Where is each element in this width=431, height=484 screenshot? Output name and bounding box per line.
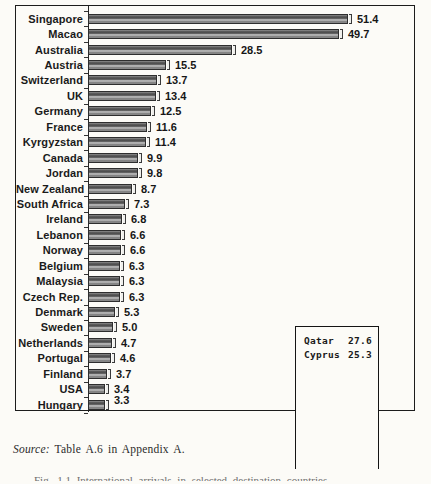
bar: [88, 91, 156, 101]
bar-row: New Zealand8.7: [16, 181, 420, 196]
category-label: USA: [16, 383, 88, 395]
bar: [88, 353, 111, 363]
value-label: 6.3: [129, 260, 144, 272]
value-label: 6.8: [131, 213, 146, 225]
inset-country-label: Qatar: [304, 334, 348, 348]
bar-row: Australia28.5: [16, 42, 420, 57]
inset-row: Cyprus25.3: [304, 348, 378, 362]
bar-end-cap: [113, 338, 116, 348]
bar-row: Singapore51.4: [16, 11, 420, 26]
bar-end-cap: [133, 184, 136, 194]
category-label: Austria: [16, 59, 88, 71]
axis-tick: [84, 413, 88, 414]
bar: [88, 137, 146, 147]
bar-end-cap: [148, 122, 151, 132]
bar-end-cap: [233, 45, 236, 55]
bar-row: Czech Rep.6.3: [16, 289, 420, 304]
bar-row: South Africa7.3: [16, 196, 420, 211]
bar: [88, 184, 132, 194]
bar: [88, 245, 121, 255]
value-label: 51.4: [357, 13, 378, 25]
value-label: 9.8: [147, 167, 162, 179]
category-label: Belgium: [16, 260, 88, 272]
category-label: New Zealand: [16, 183, 88, 195]
bar-end-cap: [167, 60, 170, 70]
value-label: 13.4: [165, 90, 186, 102]
inset-country-value: 25.3: [348, 348, 372, 362]
bar-row: Switzerland13.7: [16, 73, 420, 88]
category-label: UK: [16, 90, 88, 102]
bar: [88, 153, 138, 163]
bar: [88, 75, 157, 85]
inset-callout-box: Qatar27.6Cyprus25.3: [295, 326, 379, 469]
value-label: 4.6: [120, 352, 135, 364]
category-label: Hungary: [16, 399, 88, 411]
bar-end-cap: [108, 369, 111, 379]
category-label: Switzerland: [16, 74, 88, 86]
bar-end-cap: [158, 75, 161, 85]
category-label: South Africa: [16, 198, 88, 210]
bar: [88, 261, 120, 271]
bar-end-cap: [106, 384, 109, 394]
bar-end-cap: [116, 307, 119, 317]
category-label: Jordan: [16, 167, 88, 179]
bar-end-cap: [139, 168, 142, 178]
bar-end-cap: [112, 353, 115, 363]
value-label: 11.4: [155, 136, 176, 148]
bar-end-cap: [106, 400, 109, 410]
category-label: Finland: [16, 368, 88, 380]
category-label: Netherlands: [16, 337, 88, 349]
category-label: Ireland: [16, 213, 88, 225]
value-label: 6.6: [130, 244, 145, 256]
value-label: 5.0: [122, 321, 137, 333]
category-label: Kyrgyzstan: [16, 136, 88, 148]
value-label: 8.7: [141, 183, 156, 195]
bar-row: Canada9.9: [16, 150, 420, 165]
value-label: 9.9: [147, 152, 162, 164]
cutoff-figure-caption: Fig. 1.1 International arrivals in selec…: [34, 474, 419, 481]
bar-row: Kyrgyzstan11.4: [16, 135, 420, 150]
category-label: Australia: [16, 44, 88, 56]
bar: [88, 292, 120, 302]
bar: [88, 106, 151, 116]
bar: [88, 384, 105, 394]
bar: [88, 322, 113, 332]
value-label: 11.6: [156, 121, 177, 133]
bar: [88, 14, 348, 24]
value-label: 6.6: [130, 229, 145, 241]
inset-country-value: 27.6: [348, 334, 372, 348]
value-label: 12.5: [160, 105, 181, 117]
bar-end-cap: [121, 261, 124, 271]
bar-row: Austria15.5: [16, 57, 420, 72]
bar: [88, 230, 121, 240]
value-label: 3.3: [114, 394, 129, 406]
bar: [88, 276, 120, 286]
value-label: 6.3: [129, 275, 144, 287]
category-label: Portugal: [16, 352, 88, 364]
bar-row: Ireland6.8: [16, 212, 420, 227]
value-label: 3.7: [116, 368, 131, 380]
bar-row: Lebanon6.6: [16, 227, 420, 242]
bar-row: Denmark5.3: [16, 304, 420, 319]
category-label: Czech Rep.: [16, 291, 88, 303]
bar-row: Macao49.7: [16, 26, 420, 41]
category-label: Denmark: [16, 306, 88, 318]
bar-row: UK13.4: [16, 88, 420, 103]
bar-row: Jordan9.8: [16, 165, 420, 180]
category-label: Malaysia: [16, 275, 88, 287]
bar: [88, 369, 107, 379]
bar: [88, 122, 147, 132]
source-note-text: Table A.6 in Appendix A.: [50, 443, 185, 455]
scanned-page: Singapore51.4Macao49.7Australia28.5Austr…: [0, 0, 431, 484]
bar: [88, 168, 138, 178]
source-note-prefix: Source:: [13, 443, 50, 455]
value-label: 4.7: [121, 337, 136, 349]
category-label: Germany: [16, 105, 88, 117]
value-label: 49.7: [348, 28, 369, 40]
bar: [88, 338, 112, 348]
value-label: 6.3: [129, 291, 144, 303]
inset-country-label: Cyprus: [304, 348, 348, 362]
category-label: Norway: [16, 244, 88, 256]
value-label: 13.7: [166, 74, 187, 86]
bar-end-cap: [123, 214, 126, 224]
